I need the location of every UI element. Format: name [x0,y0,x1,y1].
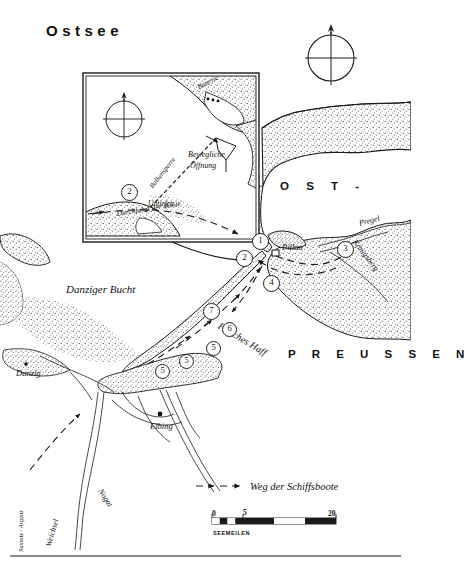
dot-danzig [24,362,28,366]
map-marker-6: 6 [222,322,237,337]
map-marker-1: 1 [252,233,269,250]
map-marker-2: 2 [236,250,253,267]
dot-pillau [272,250,279,256]
map-marker-5a: 5 [155,364,170,379]
map-marker-5c: 5 [206,341,221,356]
inset-map [83,73,259,260]
map-marker-4: 4 [263,275,280,292]
map-marker-7: 7 [203,303,220,320]
map-marker-5b: 5 [179,354,194,369]
dot-elbing [158,412,163,417]
inset-marker-2: 2 [121,184,138,201]
map-marker-3: 3 [337,241,354,258]
